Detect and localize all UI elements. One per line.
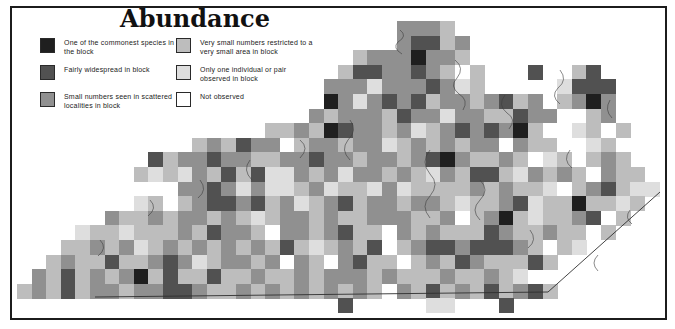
- map-cell: [411, 21, 426, 36]
- map-cell: [236, 240, 251, 255]
- map-cell: [426, 255, 441, 270]
- map-cell: [338, 167, 353, 182]
- map-cell: [484, 94, 499, 109]
- map-cell: [236, 225, 251, 240]
- map-cell: [572, 94, 587, 109]
- map-cell: [251, 225, 266, 240]
- map-cell: [367, 65, 382, 80]
- map-cell: [265, 152, 280, 167]
- map-cell: [236, 269, 251, 284]
- map-cell: [470, 284, 485, 299]
- map-cell: [251, 152, 266, 167]
- map-cell: [338, 211, 353, 226]
- map-cell: [470, 225, 485, 240]
- map-cell: [411, 196, 426, 211]
- map-cell: [46, 269, 61, 284]
- map-cell: [455, 36, 470, 51]
- map-cell: [499, 225, 514, 240]
- map-cell: [280, 211, 295, 226]
- map-cell: [148, 196, 163, 211]
- map-cell: [353, 138, 368, 153]
- map-cell: [280, 240, 295, 255]
- map-cell: [163, 269, 178, 284]
- map-cell: [586, 138, 601, 153]
- map-cell: [382, 109, 397, 124]
- map-cell: [397, 182, 412, 197]
- map-cell: [557, 123, 572, 138]
- map-cell: [382, 50, 397, 65]
- map-cell: [32, 284, 47, 299]
- map-cell: [543, 225, 558, 240]
- map-cell: [455, 211, 470, 226]
- map-cell: [382, 152, 397, 167]
- map-cell: [484, 196, 499, 211]
- map-cell: [616, 138, 631, 153]
- map-cell: [338, 65, 353, 80]
- map-cell: [75, 269, 90, 284]
- map-cell: [148, 240, 163, 255]
- map-cell: [543, 152, 558, 167]
- legend-item: Very small numbers restricted to a very …: [176, 38, 336, 56]
- map-cell: [265, 182, 280, 197]
- map-cell: [280, 196, 295, 211]
- map-cell: [178, 240, 193, 255]
- map-cell: [338, 123, 353, 138]
- map-cell: [513, 123, 528, 138]
- map-cell: [528, 225, 543, 240]
- map-cell: [236, 182, 251, 197]
- map-cell: [586, 65, 601, 80]
- map-cell: [528, 167, 543, 182]
- map-cell: [601, 123, 616, 138]
- map-cell: [513, 269, 528, 284]
- legend-swatch: [40, 92, 55, 107]
- map-cell: [134, 284, 149, 299]
- map-cell: [192, 196, 207, 211]
- figure-page: Abundance One of the commonest species i…: [0, 0, 675, 329]
- map-cell: [601, 79, 616, 94]
- map-cell: [426, 284, 441, 299]
- map-cell: [309, 152, 324, 167]
- map-cell: [148, 269, 163, 284]
- map-cell: [280, 255, 295, 270]
- map-cell: [455, 65, 470, 80]
- legend-swatch: [176, 65, 191, 80]
- map-cell: [499, 284, 514, 299]
- figure-title: Abundance: [95, 4, 295, 33]
- map-cell: [455, 50, 470, 65]
- map-cell: [163, 240, 178, 255]
- map-cell: [557, 225, 572, 240]
- map-cell: [440, 196, 455, 211]
- map-cell: [440, 240, 455, 255]
- legend-swatch: [40, 38, 55, 53]
- map-cell: [513, 182, 528, 197]
- map-cell: [309, 284, 324, 299]
- map-cell: [397, 211, 412, 226]
- map-cell: [499, 211, 514, 226]
- map-cell: [572, 152, 587, 167]
- map-cell: [367, 152, 382, 167]
- map-cell: [455, 109, 470, 124]
- map-cell: [470, 109, 485, 124]
- map-cell: [382, 284, 397, 299]
- map-cell: [601, 225, 616, 240]
- map-cell: [528, 182, 543, 197]
- map-cell: [17, 284, 32, 299]
- map-cell: [207, 240, 222, 255]
- map-cell: [221, 269, 236, 284]
- map-cell: [207, 225, 222, 240]
- map-cell: [616, 109, 631, 124]
- map-cell: [411, 109, 426, 124]
- map-cell: [294, 182, 309, 197]
- map-cell: [353, 269, 368, 284]
- map-cell: [178, 167, 193, 182]
- map-cell: [382, 65, 397, 80]
- map-cell: [207, 152, 222, 167]
- map-cell: [470, 182, 485, 197]
- map-cell: [353, 240, 368, 255]
- map-cell: [192, 240, 207, 255]
- map-cell: [46, 284, 61, 299]
- map-cell: [353, 50, 368, 65]
- map-cell: [251, 284, 266, 299]
- map-cell: [382, 196, 397, 211]
- map-cell: [572, 182, 587, 197]
